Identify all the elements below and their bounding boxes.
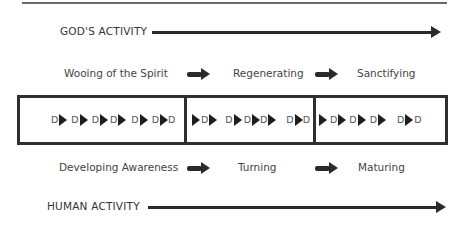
decision-d: D	[71, 112, 78, 128]
decision-d: D	[168, 112, 175, 128]
triangle-right-icon	[405, 114, 413, 126]
triangle-right-icon	[160, 114, 168, 126]
decision-d: D	[303, 112, 310, 128]
decision-d: D	[152, 112, 159, 128]
stage-regenerating: Regenerating	[233, 67, 304, 79]
triangle-right-icon	[140, 114, 148, 126]
decision-d: D	[244, 112, 251, 128]
decision-sequence-1: D D D D D D D	[51, 112, 175, 128]
triangle-right-icon	[192, 114, 200, 126]
triangle-right-icon	[118, 114, 126, 126]
triangle-right-icon	[338, 114, 346, 126]
arrow-right-icon	[187, 72, 202, 77]
stage-maturing: Maturing	[358, 161, 405, 173]
triangle-right-icon	[209, 114, 217, 126]
triangle-right-icon	[100, 114, 108, 126]
triangle-right-icon	[80, 114, 88, 126]
triangle-right-icon	[358, 114, 366, 126]
triangle-right-icon	[252, 114, 260, 126]
gods-activity-arrow-icon	[152, 31, 433, 34]
stage-developing-awareness: Developing Awareness	[59, 161, 178, 173]
top-rule	[22, 2, 447, 4]
decision-d: D	[131, 112, 138, 128]
decision-d: D	[370, 112, 377, 128]
arrow-right-icon	[315, 166, 330, 171]
human-activity-label: HUMAN ACTIVITY	[47, 200, 140, 212]
triangle-right-icon	[59, 114, 67, 126]
decision-d: D	[397, 112, 404, 128]
decision-d: D	[51, 112, 58, 128]
decision-d: D	[92, 112, 99, 128]
decision-sequence-2: D D D D D D	[192, 112, 310, 128]
section-divider	[184, 95, 187, 145]
decision-d: D	[414, 112, 421, 128]
triangle-right-icon	[378, 114, 386, 126]
decision-d: D	[349, 112, 356, 128]
triangle-right-icon	[234, 114, 242, 126]
decision-d: D	[330, 112, 337, 128]
stage-wooing: Wooing of the Spirit	[64, 67, 168, 79]
section-divider	[313, 95, 316, 145]
decision-sequence-3: D D D D D	[319, 112, 422, 128]
arrow-right-icon	[187, 166, 202, 171]
decision-d: D	[110, 112, 117, 128]
stage-sanctifying: Sanctifying	[357, 67, 416, 79]
decision-d: D	[286, 112, 293, 128]
decision-d: D	[225, 112, 232, 128]
triangle-right-icon	[319, 114, 327, 126]
human-activity-arrow-icon	[148, 206, 438, 209]
triangle-right-icon	[268, 114, 276, 126]
triangle-right-icon	[295, 114, 303, 126]
decision-d: D	[201, 112, 208, 128]
gods-activity-label: GOD'S ACTIVITY	[60, 25, 147, 37]
stage-turning: Turning	[238, 161, 277, 173]
decision-d: D	[260, 112, 267, 128]
arrow-right-icon	[315, 72, 330, 77]
